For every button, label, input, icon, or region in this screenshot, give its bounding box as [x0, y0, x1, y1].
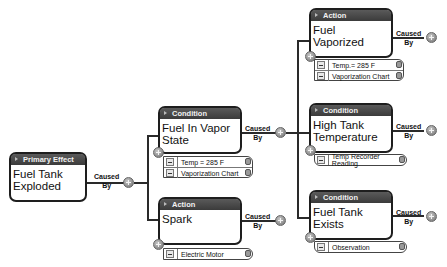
remove-evidence-icon[interactable] [166, 169, 174, 177]
connector-line [297, 132, 309, 134]
node-type-header: Action [311, 10, 391, 21]
expand-triangle-icon[interactable] [315, 13, 318, 17]
caused-by-label: CausedBy [245, 124, 270, 142]
evidence-attachment-icon[interactable] [245, 158, 251, 165]
evidence-attachment-icon[interactable] [396, 72, 402, 79]
evidence-list: Temp Recorder Reading [314, 154, 407, 166]
remove-evidence-icon[interactable] [317, 243, 325, 251]
add-cause-button[interactable] [426, 211, 437, 222]
remove-evidence-icon[interactable] [317, 156, 325, 164]
evidence-list: Observation [314, 241, 407, 253]
remove-evidence-icon[interactable] [317, 61, 325, 69]
evidence-list: Temp = 285 F Vaporization Chart [163, 156, 253, 178]
evidence-item[interactable]: Electric Motor [164, 249, 252, 259]
connector-line [297, 217, 309, 219]
evidence-item[interactable]: Temp.= 285 F [315, 60, 403, 71]
node-title: Spark [160, 210, 240, 225]
evidence-attachment-icon[interactable] [399, 156, 405, 163]
connector-line [297, 40, 299, 218]
node-high-tank-temperature[interactable]: Condition High Tank Temperature [309, 103, 393, 153]
node-fuel-in-vapor-state[interactable]: Condition Fuel In Vapor State [158, 106, 242, 154]
add-cause-button[interactable] [426, 125, 437, 136]
evidence-item[interactable]: Vaporization Chart [315, 71, 403, 81]
expand-triangle-icon[interactable] [315, 195, 318, 199]
node-type-header: Primary Effect [11, 154, 85, 165]
node-title: Fuel Tank Exists [311, 203, 391, 230]
add-cause-button[interactable] [275, 127, 286, 138]
node-type-header: Condition [311, 105, 391, 116]
evidence-list: Electric Motor [163, 248, 253, 260]
remove-evidence-icon[interactable] [317, 72, 325, 80]
evidence-item[interactable]: Vaporization Chart [164, 168, 252, 178]
connector-line [147, 135, 149, 220]
remove-evidence-icon[interactable] [166, 158, 174, 166]
add-cause-button[interactable] [426, 32, 437, 43]
node-type-header: Condition [160, 108, 240, 119]
add-cause-button[interactable] [275, 215, 286, 226]
node-fuel-vaporized[interactable]: Action Fuel Vaporized [309, 8, 393, 58]
node-title: Fuel Tank Exploded [11, 165, 85, 192]
add-cause-button[interactable] [123, 177, 134, 188]
caused-by-label: CausedBy [396, 29, 421, 47]
expand-triangle-icon[interactable] [164, 202, 167, 206]
caused-by-label: CausedBy [94, 172, 119, 190]
node-type-header: Action [160, 199, 240, 210]
node-fuel-tank-exists[interactable]: Condition Fuel Tank Exists [309, 190, 393, 240]
node-type-header: Condition [311, 192, 391, 203]
evidence-attachment-icon[interactable] [245, 250, 251, 257]
node-title: Fuel In Vapor State [160, 119, 240, 146]
caused-by-label: CausedBy [396, 208, 421, 226]
node-title: High Tank Temperature [311, 116, 391, 143]
expand-triangle-icon[interactable] [15, 157, 18, 161]
evidence-attachment-icon[interactable] [245, 169, 251, 176]
node-primary-effect[interactable]: Primary Effect Fuel Tank Exploded [9, 152, 87, 202]
connector-line [297, 40, 309, 42]
evidence-list: Temp.= 285 F Vaporization Chart [314, 59, 404, 81]
evidence-attachment-icon[interactable] [399, 243, 405, 250]
caused-by-label: CausedBy [245, 212, 270, 230]
evidence-item[interactable]: Temp Recorder Reading [315, 155, 406, 165]
node-title: Fuel Vaporized [311, 21, 391, 48]
node-spark[interactable]: Action Spark [158, 197, 242, 245]
expand-triangle-icon[interactable] [164, 111, 167, 115]
connector-line [134, 182, 148, 184]
caused-by-label: CausedBy [396, 122, 421, 140]
expand-triangle-icon[interactable] [315, 108, 318, 112]
evidence-attachment-icon[interactable] [396, 61, 402, 68]
evidence-item[interactable]: Observation [315, 242, 406, 252]
remove-evidence-icon[interactable] [166, 250, 174, 258]
evidence-item[interactable]: Temp = 285 F [164, 157, 252, 168]
